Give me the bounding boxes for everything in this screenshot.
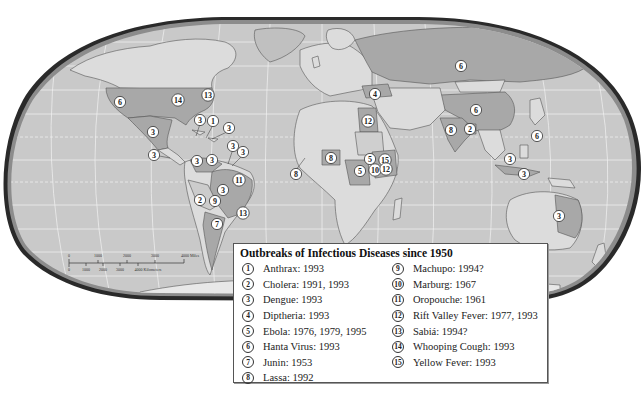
outbreak-marker-13-icon: 13 (202, 89, 214, 101)
svg-text:2000: 2000 (99, 267, 107, 272)
svg-text:6: 6 (535, 132, 539, 141)
outbreak-marker-3-icon: 3 (518, 168, 529, 179)
legend-label: Machupo: 1994? (413, 263, 484, 274)
legend-item-ebola: 5Ebola: 1976, 1979, 1995 (240, 323, 384, 339)
outbreak-marker-6-icon: 6 (470, 104, 481, 115)
number-8-icon: 8 (242, 372, 254, 384)
outbreak-marker-3-icon: 3 (217, 184, 228, 195)
svg-text:3: 3 (195, 157, 199, 166)
outbreak-marker-8-icon: 8 (325, 152, 336, 163)
legend-label: Whooping Cough: 1993 (413, 341, 515, 352)
svg-text:10: 10 (371, 166, 379, 175)
number-5-icon: 5 (242, 325, 254, 337)
legend-label: Oropouche: 1961 (413, 294, 486, 305)
svg-text:6: 6 (474, 106, 478, 115)
svg-text:2: 2 (198, 196, 202, 205)
svg-text:3000: 3000 (151, 253, 159, 258)
outbreak-marker-6-icon: 6 (531, 130, 542, 141)
outbreak-marker-11-icon: 11 (233, 174, 245, 186)
svg-text:9: 9 (213, 197, 217, 206)
svg-text:4000 Miles: 4000 Miles (181, 253, 200, 258)
number-15-icon: 15 (392, 356, 404, 368)
outbreak-marker-3-icon: 3 (553, 210, 564, 221)
svg-text:5: 5 (368, 155, 372, 164)
legend-item-yellow-fever: 15Yellow Fever: 1993 (390, 355, 541, 371)
svg-text:12: 12 (382, 165, 390, 174)
legend-column-right: 9Machupo: 1994? 10Marburg: 1967 11Oropou… (384, 261, 541, 386)
outbreak-marker-3-icon: 3 (504, 153, 515, 164)
legend-label: Junin: 1953 (263, 357, 312, 368)
legend-item-lassa: 8Lassa: 1992 (240, 370, 384, 386)
legend-label: Rift Valley Fever: 1977, 1993 (413, 310, 538, 321)
svg-text:3: 3 (152, 151, 156, 160)
svg-text:7: 7 (215, 220, 219, 229)
outbreak-marker-14-icon: 14 (172, 94, 184, 106)
number-6-icon: 6 (242, 341, 254, 353)
number-12-icon: 12 (392, 310, 404, 322)
legend-item-anthrax: 1Anthrax: 1993 (240, 261, 384, 277)
svg-text:11: 11 (235, 176, 243, 185)
svg-text:0: 0 (68, 267, 70, 272)
svg-text:3: 3 (508, 155, 512, 164)
svg-text:13: 13 (204, 91, 212, 100)
outbreak-marker-3-icon: 3 (237, 146, 248, 157)
outbreak-marker-8-icon: 8 (445, 124, 456, 135)
svg-text:4: 4 (373, 90, 377, 99)
svg-text:8: 8 (294, 170, 298, 179)
svg-text:3: 3 (221, 186, 225, 195)
number-4-icon: 4 (242, 310, 254, 322)
svg-text:8: 8 (329, 154, 333, 163)
outbreak-marker-3-icon: 3 (194, 114, 205, 125)
svg-text:8: 8 (449, 126, 453, 135)
legend-item-diptheria: 4Diptheria: 1993 (240, 308, 384, 324)
number-3-icon: 3 (242, 294, 254, 306)
legend-label: Dengue: 1993 (263, 294, 322, 305)
svg-text:4000 Kilometers: 4000 Kilometers (135, 267, 162, 272)
svg-text:5: 5 (358, 167, 362, 176)
svg-text:1000: 1000 (94, 253, 102, 258)
outbreak-marker-2-icon: 2 (194, 194, 205, 205)
svg-text:3: 3 (198, 116, 202, 125)
svg-text:14: 14 (174, 96, 182, 105)
country-russia (355, 27, 586, 84)
outbreak-marker-6-icon: 6 (455, 60, 466, 71)
outbreak-marker-9-icon: 9 (209, 195, 220, 206)
outbreak-marker-13-icon: 13 (237, 207, 249, 219)
legend-label: Hanta Virus: 1993 (263, 341, 340, 352)
legend-label: Ebola: 1976, 1979, 1995 (263, 326, 367, 337)
number-7-icon: 7 (242, 356, 254, 368)
svg-text:3: 3 (231, 142, 235, 151)
outbreak-marker-10-icon: 10 (369, 164, 381, 176)
number-1-icon: 1 (242, 263, 254, 275)
outbreak-marker-12-icon: 12 (380, 163, 392, 175)
svg-text:12: 12 (364, 117, 372, 126)
legend-column-left: 1Anthrax: 1993 2Cholera: 1991, 1993 3Den… (240, 261, 384, 386)
svg-text:3000: 3000 (116, 267, 124, 272)
outbreak-marker-3-icon: 3 (191, 155, 202, 166)
number-13-icon: 13 (392, 325, 404, 337)
svg-text:3: 3 (522, 170, 526, 179)
legend-label: Lassa: 1992 (263, 372, 313, 383)
number-9-icon: 9 (392, 263, 404, 275)
outbreak-marker-5-icon: 5 (354, 165, 365, 176)
svg-text:1: 1 (211, 117, 215, 126)
outbreak-marker-6-icon: 6 (114, 96, 125, 107)
outbreak-marker-3-icon: 3 (148, 149, 159, 160)
number-10-icon: 10 (392, 278, 404, 290)
outbreak-marker-1-icon: 1 (207, 115, 218, 126)
outbreak-marker-4-icon: 4 (369, 88, 380, 99)
svg-text:0: 0 (68, 253, 70, 258)
legend-item-dengue: 3Dengue: 1993 (240, 292, 384, 308)
outbreak-marker-3-icon: 3 (223, 122, 234, 133)
legend-title: Outbreaks of Infectious Diseases since 1… (240, 247, 541, 259)
svg-text:3: 3 (241, 148, 245, 157)
outbreak-marker-12-icon: 12 (362, 115, 374, 127)
legend-item-rift-valley-fever: 12Rift Valley Fever: 1977, 1993 (390, 308, 541, 324)
outbreak-marker-5-icon: 5 (364, 153, 375, 164)
legend-item-oropouche: 11Oropouche: 1961 (390, 292, 541, 308)
outbreak-marker-3-icon: 3 (147, 126, 158, 137)
legend-item-machupo: 9Machupo: 1994? (390, 261, 541, 277)
outbreak-marker-3-icon: 3 (206, 154, 217, 165)
legend: Outbreaks of Infectious Diseases since 1… (233, 243, 548, 383)
outbreak-marker-2-icon: 2 (464, 123, 475, 134)
